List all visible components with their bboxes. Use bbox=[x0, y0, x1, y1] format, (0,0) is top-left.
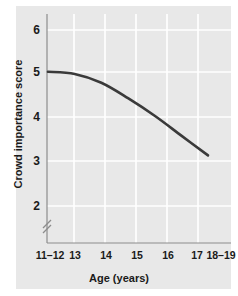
y-axis-title: Crowd importance score bbox=[12, 44, 24, 204]
xtick-label-16: 16 bbox=[162, 250, 174, 261]
xtick-label-18-19: 18–19 bbox=[206, 250, 235, 261]
xtick-label-14: 14 bbox=[100, 250, 112, 261]
chart-figure: 6 5 4 3 2 11–12 13 14 15 16 17 18–19 Cro… bbox=[0, 0, 238, 296]
ytick-label-4: 4 bbox=[24, 111, 40, 123]
xtick-label-13: 13 bbox=[69, 250, 81, 261]
data-line-crowd-importance bbox=[48, 72, 208, 156]
ytick-label-2: 2 bbox=[24, 200, 40, 212]
x-axis-title: Age (years) bbox=[0, 272, 238, 284]
xtick-label-15: 15 bbox=[131, 250, 143, 261]
ytick-label-6: 6 bbox=[24, 24, 40, 36]
ytick-label-3: 3 bbox=[24, 155, 40, 167]
vertical-gridlines bbox=[74, 14, 198, 243]
xtick-label-17: 17 bbox=[191, 250, 203, 261]
xtick-label-11-12: 11–12 bbox=[36, 250, 65, 261]
ytick-label-5: 5 bbox=[24, 66, 40, 78]
data-line-crowd-importance-shape bbox=[48, 70, 208, 168]
